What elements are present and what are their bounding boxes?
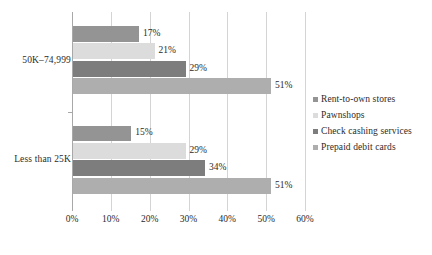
bar-1-3	[73, 178, 271, 194]
bar-0-0	[73, 26, 139, 42]
legend-label: Rent-to-own stores	[321, 94, 395, 104]
x-tick-40%: 40%	[219, 214, 236, 224]
legend-label: Check cashing services	[321, 126, 412, 136]
bar-0-1	[73, 43, 155, 59]
legend-item-2[interactable]: Check cashing services	[313, 123, 432, 139]
bar-1-2	[73, 160, 205, 176]
category-label-1: Less than 25K	[3, 154, 71, 164]
bar-1-1	[73, 143, 186, 159]
gridline-60%	[305, 12, 306, 211]
legend-swatch-icon	[313, 129, 318, 134]
bar-0-2	[73, 61, 186, 77]
bar-value-label: 29%	[190, 146, 207, 156]
x-tick-10%: 10%	[102, 214, 119, 224]
category-axis: 50K–74,999Less than 25K	[0, 0, 71, 255]
legend-item-3[interactable]: Prepaid debit cards	[313, 139, 432, 155]
bar-value-label: 29%	[190, 64, 207, 74]
x-tick-50%: 50%	[257, 214, 274, 224]
bar-0-3	[73, 78, 271, 94]
bar-value-label: 17%	[143, 29, 160, 39]
legend-item-0[interactable]: Rent-to-own stores	[313, 91, 432, 107]
bar-1-0	[73, 126, 131, 142]
bar-value-label: 51%	[275, 81, 292, 91]
legend-swatch-icon	[313, 97, 318, 102]
chart-legend: Rent-to-own storesPawnshopsCheck cashing…	[313, 91, 432, 155]
legend-swatch-icon	[313, 145, 318, 150]
bar-value-label: 15%	[135, 128, 152, 138]
x-axis-tick-labels: 0%10%20%30%40%50%60%	[72, 214, 305, 234]
bar-value-label: 51%	[275, 181, 292, 191]
legend-label: Prepaid debit cards	[321, 142, 396, 152]
bar-value-label: 34%	[209, 163, 226, 173]
bar-value-label: 21%	[159, 46, 176, 56]
legend-swatch-icon	[313, 113, 318, 118]
legend-label: Pawnshops	[321, 110, 365, 120]
axis-tick	[68, 112, 72, 113]
bar-chart: 50K–74,999Less than 25K 17%21%29%51%15%2…	[0, 0, 432, 255]
plot-area: 17%21%29%51%15%29%34%51%	[72, 12, 305, 211]
x-tick-20%: 20%	[141, 214, 158, 224]
x-tick-0%: 0%	[66, 214, 79, 224]
x-tick-60%: 60%	[296, 214, 313, 224]
x-tick-30%: 30%	[180, 214, 197, 224]
legend-item-1[interactable]: Pawnshops	[313, 107, 432, 123]
category-label-0: 50K–74,999	[3, 55, 71, 65]
